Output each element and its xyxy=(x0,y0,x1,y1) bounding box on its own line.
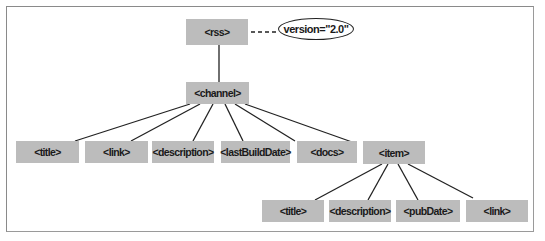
node-item-description: <description> xyxy=(329,200,391,222)
connector-channel-title xyxy=(75,104,190,141)
node-label: <item> xyxy=(379,147,409,159)
attribute-version: version="2.0" xyxy=(278,18,354,40)
node-label: <description> xyxy=(152,146,213,158)
connector-channel-docs xyxy=(235,104,295,141)
connector-item-pubdate xyxy=(398,164,418,200)
node-rss: <rss> xyxy=(186,19,248,45)
node-channel-title: <title> xyxy=(16,141,79,163)
node-item-pubdate: <pubDate> xyxy=(396,200,460,222)
connector-item-link xyxy=(408,164,473,198)
node-item-title: <title> xyxy=(262,200,324,222)
node-channel-link: <link> xyxy=(85,141,148,163)
attribute-version-label: version="2.0" xyxy=(284,23,349,35)
node-label: <description> xyxy=(329,205,390,217)
connector-channel-description xyxy=(193,104,213,141)
node-label: <pubDate> xyxy=(404,205,453,217)
node-channel-lastbuilddate: <lastBuildDate> xyxy=(221,141,290,163)
connector-channel-lastbuilddate xyxy=(225,104,243,141)
node-label: <lastBuildDate> xyxy=(220,146,290,158)
node-label: <link> xyxy=(103,146,130,158)
node-label: <title> xyxy=(280,205,307,217)
node-channel-label: <channel> xyxy=(194,87,241,99)
node-channel-item: <item> xyxy=(363,141,425,164)
node-channel-description: <description> xyxy=(152,141,214,163)
connector-channel-item xyxy=(245,104,352,142)
node-item-link: <link> xyxy=(466,200,528,222)
node-label: <link> xyxy=(484,205,511,217)
connector-channel-link xyxy=(131,104,200,141)
node-label: <docs> xyxy=(310,146,343,158)
node-label: <title> xyxy=(34,146,61,158)
node-channel: <channel> xyxy=(186,82,249,104)
node-rss-label: <rss> xyxy=(204,26,229,38)
node-channel-docs: <docs> xyxy=(297,141,357,163)
connector-item-title xyxy=(315,164,382,200)
